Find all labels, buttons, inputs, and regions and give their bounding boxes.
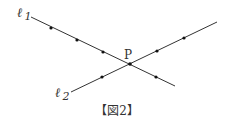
line1-label: ℓ1: [17, 5, 31, 23]
line2-label: ℓ2: [55, 85, 69, 103]
line-2: [71, 22, 217, 92]
point-dot: [155, 49, 158, 52]
point-dot: [75, 38, 78, 41]
figure-caption: 【図2】: [95, 104, 139, 118]
point-dot: [101, 50, 104, 53]
intersection-point-p: [128, 62, 132, 66]
point-dot: [154, 75, 157, 78]
diagram-canvas: ℓ1 ℓ2 P 【図2】: [0, 0, 231, 127]
point-dot: [49, 26, 52, 29]
point-p-label: P: [124, 48, 132, 62]
point-dot: [182, 36, 185, 39]
point-dot: [100, 75, 103, 78]
